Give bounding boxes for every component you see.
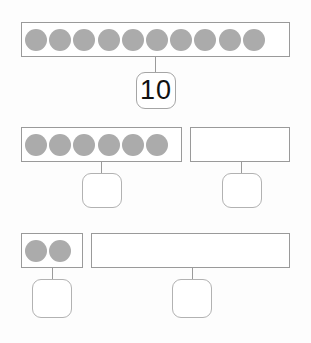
whole-bar-ten-dots[interactable] <box>21 22 290 57</box>
counter-dot <box>25 134 47 156</box>
counter-dot <box>146 134 168 156</box>
counter-dot <box>219 29 241 51</box>
part-bar-empty-long[interactable] <box>91 233 290 268</box>
part-bar-two-dots[interactable] <box>21 233 83 268</box>
counter-dot <box>49 29 71 51</box>
counter-dot <box>49 240 71 262</box>
part-bar-empty[interactable] <box>190 127 290 162</box>
counter-dot <box>73 29 95 51</box>
counter-dot <box>170 29 192 51</box>
counter-dot <box>243 29 265 51</box>
value-box-part-two[interactable] <box>32 279 72 318</box>
counter-dot <box>98 134 120 156</box>
counter-dot <box>146 29 168 51</box>
connector-stem-four <box>241 162 242 173</box>
counter-dot <box>122 134 144 156</box>
counter-dot <box>25 29 47 51</box>
connector-stem-whole <box>155 57 156 72</box>
value-box-whole[interactable]: 10 <box>136 72 176 109</box>
value-box-part-eight[interactable] <box>172 279 212 318</box>
counter-dot <box>25 240 47 262</box>
counter-dot <box>49 134 71 156</box>
counter-dot <box>98 29 120 51</box>
value-box-part-six[interactable] <box>82 173 122 208</box>
connector-stem-six <box>101 162 102 173</box>
counter-dot <box>73 134 95 156</box>
value-box-part-four[interactable] <box>222 173 262 208</box>
connector-stem-two <box>52 268 53 279</box>
connector-stem-eight <box>192 268 193 279</box>
part-bar-six-dots[interactable] <box>21 127 182 162</box>
counter-dot <box>122 29 144 51</box>
counter-dot <box>194 29 216 51</box>
number-bond-worksheet: 10 <box>0 0 311 343</box>
